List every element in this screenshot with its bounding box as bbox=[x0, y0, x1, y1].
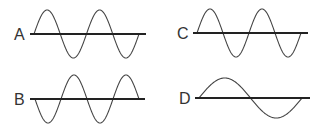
panel-d bbox=[195, 78, 310, 118]
panel-label-a: A bbox=[14, 27, 25, 43]
panel-label-c: C bbox=[177, 26, 189, 42]
panel-label-b: B bbox=[14, 92, 25, 108]
waveform-diagram: A B C D bbox=[0, 0, 322, 130]
panel-label-d: D bbox=[179, 91, 191, 107]
panel-c bbox=[193, 9, 308, 57]
panel-b bbox=[30, 75, 145, 123]
panel-a bbox=[30, 10, 146, 58]
waveforms-canvas bbox=[0, 0, 322, 130]
